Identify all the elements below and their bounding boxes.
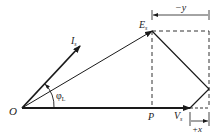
label-dim-plus-x: +x bbox=[192, 124, 202, 134]
phasor-diagram: O Is Es Vs P φL −y +x bbox=[0, 0, 224, 134]
label-emf: Es bbox=[138, 19, 148, 31]
angle-arc bbox=[45, 84, 54, 108]
label-origin: O bbox=[9, 105, 17, 117]
label-angle: φL bbox=[56, 90, 66, 102]
label-voltage: Vs bbox=[174, 110, 183, 122]
emf-phasor bbox=[22, 31, 152, 108]
impedance-drop-lines bbox=[152, 31, 209, 108]
label-current: Is bbox=[70, 35, 77, 47]
current-phasor bbox=[22, 46, 80, 108]
dashed-projection-box bbox=[152, 31, 209, 108]
label-dim-minus-y: −y bbox=[175, 2, 187, 13]
label-point-p: P bbox=[147, 111, 154, 122]
